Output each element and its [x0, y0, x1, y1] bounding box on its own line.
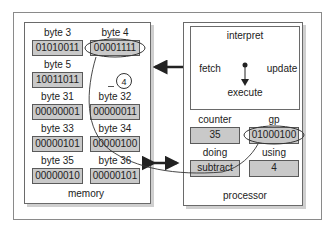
connectors — [0, 0, 333, 230]
execute-arrowhead — [241, 79, 249, 86]
byte4-highlight — [85, 39, 145, 57]
gp-highlight — [244, 126, 304, 144]
link-curve — [89, 57, 258, 173]
